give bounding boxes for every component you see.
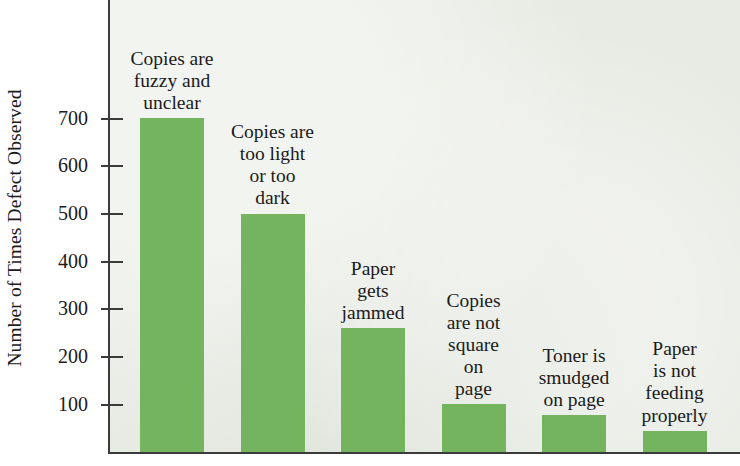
- y-axis-title: Number of Times Defect Observed: [0, 0, 30, 456]
- bar-group[interactable]: Paper gets jammed: [341, 0, 405, 452]
- y-tick-600: [101, 165, 123, 167]
- y-tick-700: [101, 118, 123, 120]
- bar[interactable]: [442, 404, 506, 452]
- y-tick-label-700: 700: [58, 106, 88, 129]
- bar[interactable]: [542, 415, 606, 452]
- y-tick-400: [101, 261, 123, 263]
- y-tick-200: [101, 356, 123, 358]
- y-tick-500: [101, 213, 123, 215]
- y-tick-label-500: 500: [58, 202, 88, 225]
- bar-group[interactable]: Toner is smudged on page: [542, 0, 606, 452]
- bar[interactable]: [643, 431, 707, 452]
- bar[interactable]: [341, 328, 405, 452]
- y-tick-label-400: 400: [58, 249, 88, 272]
- bar-group[interactable]: Paper is not feeding properly: [643, 0, 707, 452]
- bar[interactable]: [140, 118, 204, 452]
- y-tick-label-200: 200: [58, 345, 88, 368]
- pareto-chart: Number of Times Defect Observed 10020030…: [0, 0, 740, 466]
- y-tick-100: [101, 404, 123, 406]
- y-tick-300: [101, 308, 123, 310]
- y-tick-label-600: 600: [58, 154, 88, 177]
- y-axis-tick-labels: 100200300400500600700: [30, 0, 92, 466]
- y-axis-title-text: Number of Times Defect Observed: [4, 89, 26, 366]
- bar-series: Copies are fuzzy and unclearCopies are t…: [110, 0, 740, 452]
- bar-category-label: Copies are too light or too dark: [214, 121, 332, 209]
- plot-area: Copies are fuzzy and unclearCopies are t…: [108, 0, 740, 454]
- bar[interactable]: [241, 214, 305, 453]
- y-tick-label-100: 100: [58, 392, 88, 415]
- bar-group[interactable]: Copies are not square on page: [442, 0, 506, 452]
- bar-group[interactable]: Copies are too light or too dark: [241, 0, 305, 452]
- bar-category-label: Copies are fuzzy and unclear: [113, 48, 231, 114]
- bar-group[interactable]: Copies are fuzzy and unclear: [140, 0, 204, 452]
- y-tick-label-300: 300: [58, 297, 88, 320]
- bar-category-label: Paper is not feeding properly: [616, 338, 734, 426]
